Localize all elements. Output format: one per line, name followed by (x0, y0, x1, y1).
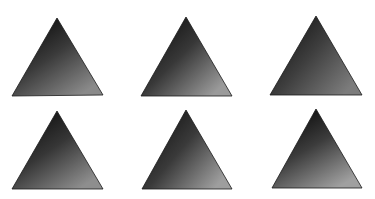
shaded-triangle-5 (142, 110, 232, 189)
shaded-triangle-3 (270, 16, 362, 95)
shaded-triangle-1 (12, 18, 103, 96)
shaded-triangle-6 (272, 109, 362, 188)
triangle-grid (0, 0, 375, 199)
shaded-triangle-4 (12, 111, 103, 189)
triangles-group (12, 16, 362, 189)
shaded-triangle-2 (141, 17, 232, 96)
